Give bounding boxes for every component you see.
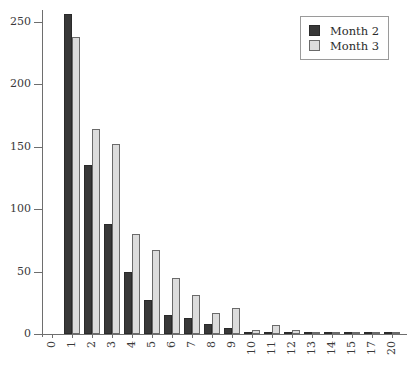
x-axis-tick-label: 13 <box>306 341 317 355</box>
bar-month-3-9 <box>232 308 240 334</box>
bar-month-3-12 <box>292 330 300 334</box>
y-axis-tick <box>34 147 42 148</box>
x-axis-tick <box>232 334 233 338</box>
x-axis-tick-label: 4 <box>126 341 137 348</box>
x-axis-tick-label: 0 <box>46 341 57 348</box>
x-axis-tick <box>392 334 393 338</box>
legend-item-month-2: Month 2 <box>309 23 379 38</box>
bar-month-3-6 <box>172 278 180 334</box>
y-axis-tick-label: 250 <box>0 16 31 27</box>
bar-month-3-15 <box>352 332 360 334</box>
x-axis-tick <box>92 334 93 338</box>
bar-month-2-3 <box>104 224 112 334</box>
x-axis-tick-label: 9 <box>226 341 237 348</box>
plot-area <box>42 13 402 334</box>
x-axis-tick <box>152 334 153 338</box>
bar-month-2-8 <box>204 324 212 334</box>
bar-month-2-1 <box>64 14 72 334</box>
bar-month-3-2 <box>92 129 100 334</box>
bar-month-3-11 <box>272 325 280 334</box>
x-axis-tick <box>112 334 113 338</box>
bar-month-3-10 <box>252 330 260 334</box>
x-axis-tick <box>252 334 253 338</box>
y-axis-tick <box>34 22 42 23</box>
chart-legend: Month 2 Month 3 <box>300 16 389 60</box>
bar-month-2-14 <box>324 332 332 334</box>
bar-month-2-7 <box>184 318 192 334</box>
legend-label: Month 2 <box>330 25 379 37</box>
x-axis-tick-label: 20 <box>386 341 397 355</box>
bar-month-3-3 <box>112 144 120 334</box>
x-axis-tick-label: 3 <box>106 341 117 348</box>
bar-month-2-15 <box>344 332 352 334</box>
x-axis-tick-label: 7 <box>186 341 197 348</box>
y-axis-tick-label: 200 <box>0 78 31 89</box>
bar-month-2-2 <box>84 165 92 334</box>
bar-chart: 050100150200250 012345678910111213141517… <box>0 0 410 377</box>
dark-square-swatch-icon <box>309 25 320 36</box>
x-axis-tick <box>212 334 213 338</box>
x-axis-tick-label: 5 <box>146 341 157 348</box>
legend-label: Month 3 <box>330 40 379 52</box>
bar-month-3-7 <box>192 295 200 334</box>
x-axis-tick-label: 12 <box>286 341 297 355</box>
x-axis-tick <box>292 334 293 338</box>
bar-month-2-17 <box>364 332 372 334</box>
x-axis-tick <box>132 334 133 338</box>
bar-month-3-5 <box>152 250 160 334</box>
bar-month-2-6 <box>164 315 172 334</box>
x-axis-tick-label: 2 <box>86 341 97 348</box>
x-axis-tick-label: 8 <box>206 341 217 348</box>
y-axis-tick-label: 100 <box>0 203 31 214</box>
y-axis-tick-label: 150 <box>0 141 31 152</box>
x-axis-tick-label: 1 <box>66 341 77 348</box>
bar-month-3-17 <box>372 332 380 334</box>
y-axis-tick <box>34 84 42 85</box>
bar-month-2-13 <box>304 332 312 334</box>
x-axis-tick <box>372 334 373 338</box>
bar-month-2-4 <box>124 272 132 334</box>
x-axis-tick <box>312 334 313 338</box>
legend-item-month-3: Month 3 <box>309 38 379 53</box>
x-axis-tick-label: 10 <box>246 341 257 355</box>
y-axis-tick <box>34 209 42 210</box>
x-axis-tick-label: 11 <box>266 341 277 355</box>
bar-month-2-20 <box>384 332 392 334</box>
bar-month-2-10 <box>244 332 252 334</box>
x-axis-tick-label: 15 <box>346 341 357 355</box>
bar-month-3-13 <box>312 332 320 334</box>
x-axis-tick <box>52 334 53 338</box>
y-axis-tick-label: 50 <box>0 266 31 277</box>
y-axis-tick <box>34 334 42 335</box>
bar-month-3-8 <box>212 313 220 334</box>
x-axis-tick <box>72 334 73 338</box>
y-axis-tick <box>34 272 42 273</box>
x-axis-tick-label: 6 <box>166 341 177 348</box>
x-axis-tick <box>352 334 353 338</box>
x-axis-tick-label: 17 <box>366 341 377 355</box>
bar-month-2-9 <box>224 328 232 334</box>
bar-month-3-4 <box>132 234 140 334</box>
x-axis-tick-label: 14 <box>326 341 337 355</box>
bar-month-3-14 <box>332 332 340 334</box>
bar-month-3-1 <box>72 37 80 334</box>
x-axis-tick <box>192 334 193 338</box>
bar-month-2-5 <box>144 300 152 334</box>
light-square-swatch-icon <box>309 40 320 51</box>
x-axis-tick <box>272 334 273 338</box>
x-axis-tick <box>332 334 333 338</box>
y-axis-tick-label: 0 <box>0 328 31 339</box>
bar-month-2-12 <box>284 332 292 334</box>
bar-month-3-20 <box>392 332 400 334</box>
x-axis-tick <box>172 334 173 338</box>
bar-month-2-11 <box>264 332 272 334</box>
